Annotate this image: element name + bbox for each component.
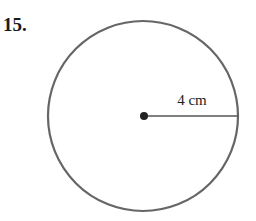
circle-figure: 4 cm xyxy=(0,0,256,221)
radius-label: 4 cm xyxy=(177,92,207,108)
center-point xyxy=(140,112,148,120)
